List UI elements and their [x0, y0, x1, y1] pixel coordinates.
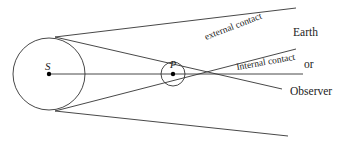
sun-label: S [45, 60, 51, 72]
sun-center-dot [47, 72, 51, 76]
planet-label: P [169, 59, 176, 70]
or-label: or [304, 58, 314, 70]
earth-label: Earth [293, 26, 318, 38]
planet-center-dot [171, 72, 175, 76]
internal-contact-label: Internal contact [236, 52, 297, 72]
observer-label: Observer [290, 85, 332, 97]
transit-contact-diagram: S P external contact Internal contact Ea… [0, 0, 347, 141]
external-tangent-lower [55, 111, 288, 136]
